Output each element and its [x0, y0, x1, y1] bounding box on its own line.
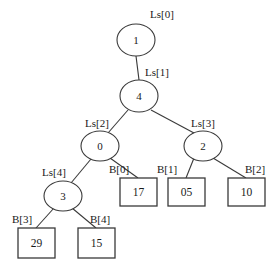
leaf-box-label: B[4] — [90, 213, 110, 225]
leaf-box-value: 10 — [241, 186, 253, 198]
tree-node-label: Ls[1] — [145, 66, 169, 78]
tree-edge — [151, 110, 194, 133]
tree-node-value: 4 — [136, 90, 142, 102]
leaf-box-label: B[3] — [12, 213, 32, 225]
tree-node-label: Ls[4] — [42, 166, 66, 178]
tree-node-value: 1 — [133, 34, 139, 46]
leaf-box-label: B[2] — [245, 163, 265, 175]
tree-edge — [213, 158, 246, 178]
leaf-box-value: 17 — [133, 186, 145, 198]
tree-node-label: Ls[3] — [191, 117, 215, 129]
tree-node-value: 2 — [200, 140, 206, 152]
leaf-box-value: 15 — [91, 237, 103, 249]
tree-edge — [136, 56, 139, 80]
tree-node-label: Ls[0] — [150, 8, 174, 20]
tree-node-value: 3 — [60, 190, 66, 202]
tree-node-value: 0 — [97, 140, 103, 152]
tree-canvas: 1705102915 14023 B[0]B[1]B[2]B[3]B[4]Ls[… — [0, 0, 276, 271]
leaf-box-label: B[1] — [157, 163, 177, 175]
binary-tree-diagram: 1705102915 14023 B[0]B[1]B[2]B[3]B[4]Ls[… — [0, 0, 276, 271]
tree-edge — [186, 158, 194, 178]
tree-node-label: Ls[2] — [85, 117, 109, 129]
leaf-box-value: 05 — [181, 186, 193, 198]
tree-edge — [108, 110, 128, 133]
tree-edge — [36, 208, 54, 228]
leaf-box-label: B[0] — [109, 163, 129, 175]
leaf-box-value: 29 — [31, 237, 43, 249]
tree-edge — [71, 159, 91, 183]
